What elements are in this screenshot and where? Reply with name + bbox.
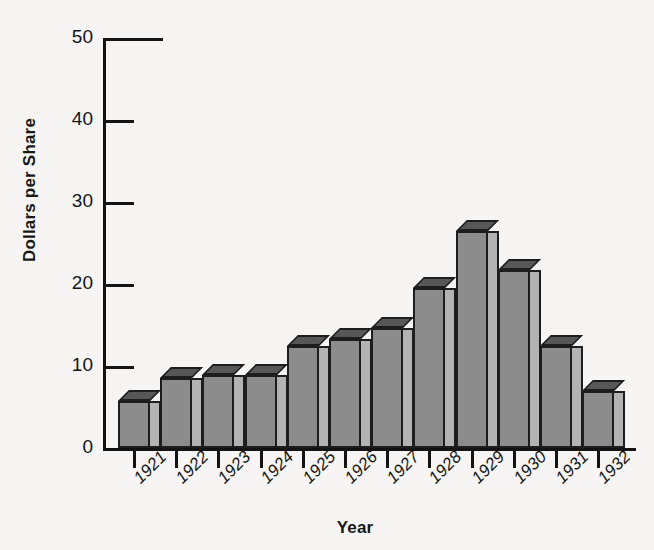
x-axis-tick-label: 1924 [257, 447, 298, 488]
x-axis-tick-mark [597, 451, 600, 468]
bar-front-face [160, 378, 192, 448]
bar [498, 270, 530, 448]
bar [202, 375, 234, 448]
bar-top-face [540, 335, 583, 346]
x-axis-tick-label: 1922 [172, 447, 213, 488]
bar-front-face [413, 288, 445, 448]
bar [160, 378, 192, 448]
x-axis-tick-label: 1926 [341, 447, 382, 488]
bar [287, 346, 319, 448]
x-axis-title: Year [0, 518, 654, 538]
bar [413, 288, 445, 448]
x-axis-tick-mark [386, 451, 389, 468]
bar-front-face [287, 346, 319, 448]
x-axis-tick-mark [217, 451, 220, 468]
x-axis-tick-label: 1921 [130, 447, 171, 488]
y-axis-tick-label: 0 [37, 437, 93, 456]
x-axis-tick-mark [428, 451, 431, 468]
bar-top-face [413, 277, 456, 288]
x-axis-title-label: Year [337, 518, 374, 537]
bar [540, 346, 572, 449]
bar [118, 401, 150, 448]
x-axis-tick-label: 1929 [468, 447, 509, 488]
bar-front-face [582, 391, 614, 448]
y-axis-tick-mark [103, 202, 134, 205]
bar [245, 375, 277, 448]
y-axis-tick-mark [103, 284, 134, 287]
plot-area: 01020304050 1921192219231924192519261927… [103, 38, 636, 450]
bar-front-face [118, 401, 150, 448]
y-axis-tick-label: 40 [37, 109, 93, 128]
bar-side-face [614, 391, 625, 448]
bar [456, 231, 488, 448]
bar [329, 339, 361, 448]
x-axis-tick-mark [555, 451, 558, 468]
x-axis-tick-mark [513, 451, 516, 468]
bar-top-face [118, 390, 161, 401]
y-axis-tick-label: 30 [37, 191, 93, 210]
x-axis-tick-label: 1930 [510, 447, 551, 488]
y-axis-tick-label: 10 [37, 355, 93, 374]
x-axis-tick-mark [302, 451, 305, 468]
x-axis-tick-label: 1925 [299, 447, 340, 488]
bar-top-face [287, 335, 330, 346]
x-axis-tick-mark [133, 451, 136, 468]
x-axis-tick-label: 1927 [383, 447, 424, 488]
bar-front-face [456, 231, 488, 448]
bar-front-face [371, 328, 403, 448]
bar-top-face [245, 364, 288, 375]
bar-top-face [371, 317, 414, 328]
bar-front-face [498, 270, 530, 448]
y-axis-tick-label: 20 [37, 273, 93, 292]
bar-front-face [245, 375, 277, 448]
x-axis-tick-label: 1931 [552, 447, 593, 488]
bar-chart: Dollars per Share Year 01020304050 19211… [0, 0, 654, 550]
x-axis-tick-label: 1932 [594, 447, 635, 488]
bar-top-face [160, 367, 203, 378]
bar-top-face [498, 259, 541, 270]
bar [371, 328, 403, 448]
x-axis-tick-mark [260, 451, 263, 468]
y-axis-top-tick [103, 38, 163, 41]
x-axis-tick-mark [471, 451, 474, 468]
y-axis-line [103, 38, 106, 451]
x-axis-tick-label: 1928 [425, 447, 466, 488]
x-axis-tick-label: 1923 [214, 447, 255, 488]
bar-top-face [202, 364, 245, 375]
bar-front-face [329, 339, 361, 448]
x-axis-tick-mark [344, 451, 347, 468]
bar-top-face [456, 220, 499, 231]
y-axis-tick-mark [103, 120, 134, 123]
bar [582, 391, 614, 448]
y-axis-tick-mark [103, 366, 134, 369]
y-axis-tick-label: 50 [37, 27, 93, 46]
bar-front-face [540, 346, 572, 449]
bar-front-face [202, 375, 234, 448]
bar-top-face [582, 380, 625, 391]
bar-top-face [329, 328, 372, 339]
x-axis-tick-mark [175, 451, 178, 468]
